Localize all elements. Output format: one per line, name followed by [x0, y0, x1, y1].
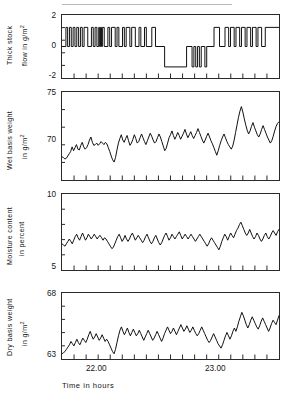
- panel-3-svg: [61, 193, 280, 271]
- panel-2-ylabel-line1: Wet basis weight: [6, 96, 16, 184]
- panel-4-ytick-top: 68: [34, 289, 56, 298]
- panel-1-ylabel-line1: Thick stock: [6, 12, 16, 78]
- page-edge-line: [62, 4, 232, 5]
- xtick-label-2200: 22.00: [86, 364, 107, 373]
- panel-2-trace: [62, 107, 279, 162]
- panel-2-svg: [61, 91, 280, 181]
- panel-3-ylabel-line1: Moisture content: [6, 194, 16, 278]
- xtick-label-2300: 23.00: [205, 364, 226, 373]
- x-axis-caption: Time in hours: [62, 381, 114, 390]
- panel-4-ylabel-line1: Dry basis weight: [6, 292, 16, 362]
- panel-3-ylabel-line2: in percent: [18, 206, 28, 272]
- panel-1-ytick-mid: 0: [36, 41, 56, 50]
- panel-1-ytick-bottom: -2: [32, 71, 56, 80]
- panel-3-plot-moisture-content: [61, 193, 280, 271]
- panel-1-ylabel-line2: flow in g/m2: [18, 12, 28, 78]
- panel-4-svg: [61, 292, 280, 360]
- panel-3-ticks: [62, 209, 267, 270]
- panel-2-ytick-mid: 70: [34, 135, 56, 144]
- panel-3-ytick-bottom: 5: [34, 262, 56, 271]
- panel-4-trace: [62, 312, 279, 353]
- panel-3-trace: [62, 222, 279, 250]
- panel-1-plot-thick-stock-flow: [61, 14, 280, 79]
- panel-2-plot-wet-basis-weight: [61, 91, 280, 181]
- panel-4-ytick-bottom: 63: [34, 350, 56, 359]
- multi-panel-time-series-figure: Thick stock flow in g/m2 2 0 -2 Wet basi…: [0, 0, 282, 398]
- panel-4-ylabel-line2: in g/m2: [18, 306, 28, 362]
- panel-1-trace: [62, 27, 279, 67]
- panel-1-svg: [61, 14, 280, 79]
- panel-2-ytick-top: 75: [34, 88, 56, 97]
- panel-2-ylabel-line2: in g/m2: [18, 112, 28, 182]
- panel-4-plot-dry-basis-weight: [61, 292, 280, 360]
- panel-4-ticks: [62, 306, 267, 359]
- panel-1-ytick-top: 2: [36, 11, 56, 20]
- panel-2-ticks: [62, 110, 267, 181]
- panel-3-ytick-top: 10: [34, 190, 56, 199]
